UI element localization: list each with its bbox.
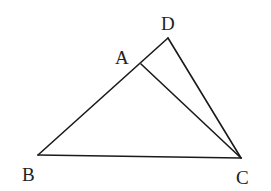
point-label-b: B [22, 164, 35, 185]
segment-ac [141, 64, 241, 158]
segment-bd [38, 38, 168, 155]
segment-dc [168, 38, 241, 158]
point-label-c: C [236, 167, 249, 188]
point-label-a: A [115, 47, 129, 68]
point-label-d: D [161, 13, 175, 34]
segment-bc [38, 155, 241, 158]
triangle-diagram: D A B C [0, 0, 271, 191]
